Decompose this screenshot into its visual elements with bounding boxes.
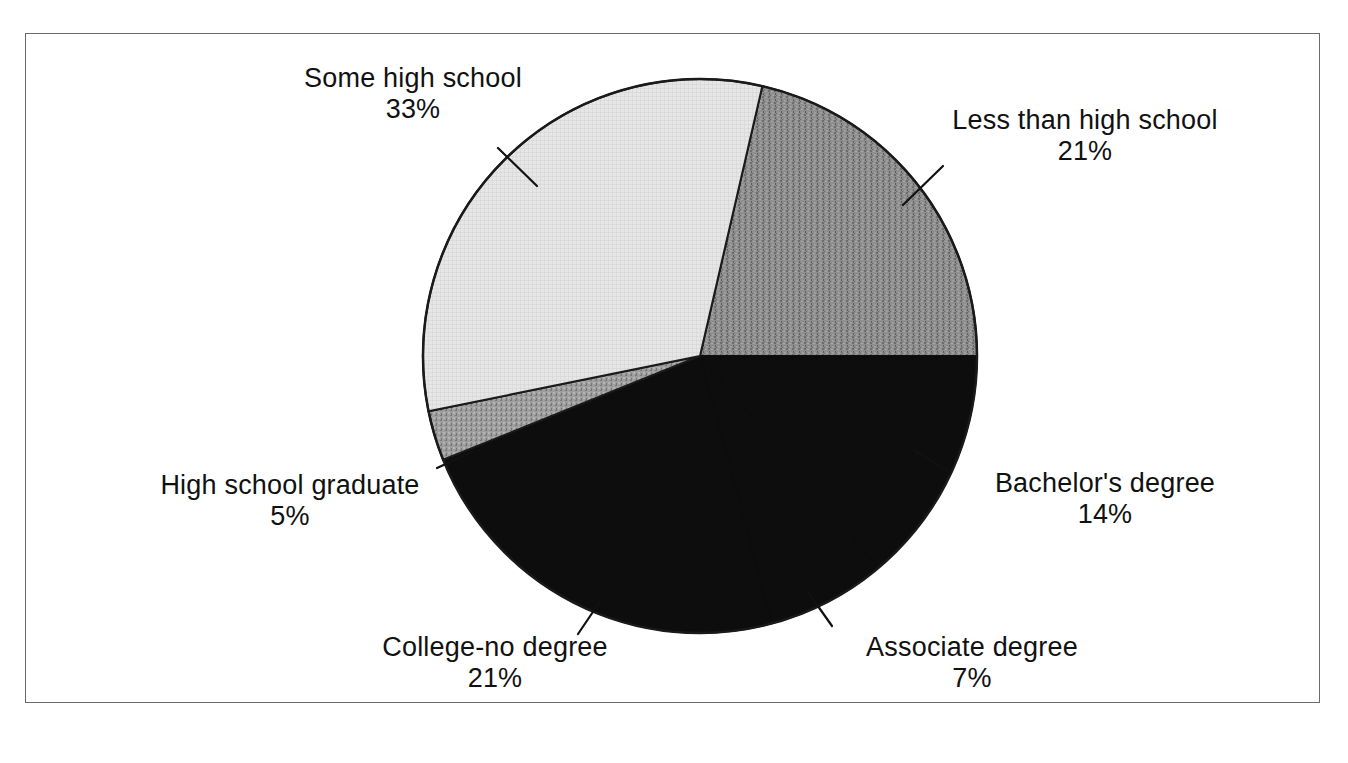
pie-chart-figure: Some high school 33% Less than high scho… (0, 0, 1348, 763)
slice-label-name: College-no degree (330, 632, 660, 663)
slice-label-college-no-degree: College-no degree 21% (330, 632, 660, 695)
slice-label-high-school-graduate: High school graduate 5% (110, 470, 470, 533)
slice-label-bachelors-degree: Bachelor's degree 14% (955, 468, 1255, 531)
slice-label-value: 33% (248, 94, 578, 125)
slice-label-value: 14% (955, 499, 1255, 530)
slice-label-name: Less than high school (920, 105, 1250, 136)
slice-label-value: 7% (822, 663, 1122, 694)
slice-label-value: 21% (920, 136, 1250, 167)
slice-label-name: Some high school (248, 63, 578, 94)
slice-label-value: 21% (330, 663, 660, 694)
slice-label-name: Associate degree (822, 632, 1122, 663)
slice-label-less-than-high-school: Less than high school 21% (920, 105, 1250, 168)
slice-label-value: 5% (110, 501, 470, 532)
slice-label-some-high-school: Some high school 33% (248, 63, 578, 126)
page-bottom-edge (0, 737, 1348, 763)
slice-label-associate-degree: Associate degree 7% (822, 632, 1122, 695)
slice-label-name: Bachelor's degree (955, 468, 1255, 499)
slice-label-name: High school graduate (110, 470, 470, 501)
